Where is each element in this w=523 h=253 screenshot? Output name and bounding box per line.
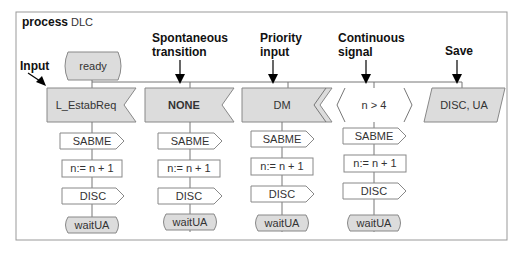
annotation-spontaneous: Spontaneous	[152, 31, 228, 45]
svg-text:SABME: SABME	[263, 133, 302, 145]
svg-text:DISC: DISC	[80, 190, 106, 202]
branch-2: SABME n:= n + 1 DISC waitUA	[158, 122, 222, 232]
annotation-save: Save	[445, 44, 473, 58]
svg-text:n:= n + 1: n:= n + 1	[353, 157, 396, 169]
input-signal-label: L_EstabReq	[56, 99, 117, 111]
svg-text:DISC: DISC	[176, 190, 202, 202]
annotation-spontaneous-2: transition	[152, 45, 207, 59]
svg-text:n:= n + 1: n:= n + 1	[167, 162, 210, 174]
svg-text:n:= n + 1: n:= n + 1	[70, 162, 113, 174]
annotation-priority-2: input	[260, 45, 289, 59]
svg-text:SABME: SABME	[73, 135, 112, 147]
svg-text:waitUA: waitUA	[356, 217, 393, 229]
frame-title: processDLC	[22, 15, 93, 29]
annotation-continuous-2: signal	[338, 45, 373, 59]
state-ready-label: ready	[79, 60, 107, 72]
svg-text:DISC: DISC	[269, 188, 295, 200]
svg-text:waitUA: waitUA	[172, 216, 209, 228]
priority-label: DM	[273, 99, 290, 111]
svg-text:DISC: DISC	[361, 185, 387, 197]
annotation-input: Input	[20, 59, 49, 73]
svg-text:waitUA: waitUA	[264, 217, 301, 229]
svg-text:waitUA: waitUA	[74, 219, 111, 231]
annotation-priority: Priority	[260, 31, 302, 45]
save-label: DISC, UA	[440, 99, 488, 111]
svg-text:SABME: SABME	[171, 135, 210, 147]
svg-text:n:= n + 1: n:= n + 1	[260, 160, 303, 172]
continuous-label: n > 4	[362, 99, 387, 111]
spontaneous-label: NONE	[168, 99, 200, 111]
annotation-continuous: Continuous	[338, 31, 405, 45]
sdl-diagram: processDLC ready Input Spontaneous trans…	[0, 0, 523, 253]
svg-text:SABME: SABME	[355, 130, 394, 142]
